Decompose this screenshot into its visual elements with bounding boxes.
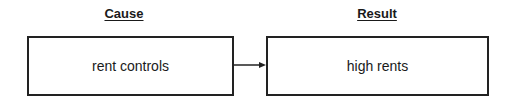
arrow-connector: [233, 60, 267, 70]
cause-heading: Cause: [94, 6, 154, 21]
result-heading: Result: [347, 6, 407, 21]
result-text: high rents: [347, 58, 408, 74]
result-box: high rents: [266, 36, 489, 96]
cause-text: rent controls: [92, 58, 169, 74]
cause-box: rent controls: [27, 36, 234, 96]
